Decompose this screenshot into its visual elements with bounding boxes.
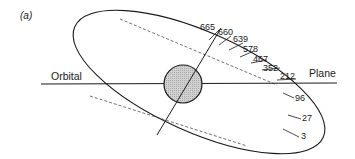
marker-label-212: 212: [280, 72, 295, 81]
orbit-diagram: (a) Orbital Plane 665 660 639 578 467 35…: [0, 0, 355, 159]
panel-label: (a): [20, 11, 32, 21]
marker-label-27: 27: [302, 114, 312, 123]
lower-dashed-line: [90, 96, 247, 146]
central-body: [164, 65, 202, 103]
plane-label: Plane: [309, 68, 336, 79]
marker-label-96: 96: [295, 94, 305, 103]
marker-label-660: 660: [218, 28, 233, 37]
marker-label-3: 3: [301, 132, 306, 141]
orbital-label: Orbital: [51, 71, 82, 82]
marker-label-639: 639: [233, 35, 248, 44]
marker-label-578: 578: [243, 45, 258, 54]
marker-label-665: 665: [200, 23, 215, 32]
marker-label-352: 352: [263, 64, 278, 73]
